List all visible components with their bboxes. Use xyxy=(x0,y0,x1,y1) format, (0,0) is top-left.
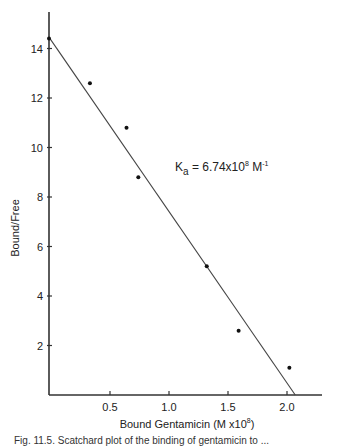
binding-constant-annotation: Ka = 6.74x108 M-1 xyxy=(175,160,269,177)
x-axis-title: Bound Gentamicin (M x108) xyxy=(120,417,255,430)
y-tick-label: 6 xyxy=(37,241,43,253)
data-point xyxy=(237,329,241,333)
y-tick-label: 4 xyxy=(37,290,43,302)
data-point xyxy=(205,264,209,268)
figure-caption: Fig. 11.5. Scatchard plot of the binding… xyxy=(14,435,269,446)
y-tick-label: 14 xyxy=(31,43,43,55)
data-point xyxy=(125,126,129,130)
data-point xyxy=(136,175,140,179)
x-tick-label: 2.0 xyxy=(279,401,294,413)
y-tick-label: 12 xyxy=(31,92,43,104)
data-point xyxy=(47,37,51,41)
data-point xyxy=(287,366,291,370)
data-point xyxy=(88,81,92,85)
x-tick-label: 1.0 xyxy=(161,401,176,413)
scatchard-plot: 24681012140.51.01.52.0Bound/FreeBound Ge… xyxy=(0,0,338,446)
y-tick-label: 8 xyxy=(37,191,43,203)
y-tick-label: 2 xyxy=(37,340,43,352)
x-tick-label: 1.5 xyxy=(220,401,235,413)
x-tick-label: 0.5 xyxy=(102,401,117,413)
y-axis-title: Bound/Free xyxy=(9,199,21,256)
regression-line xyxy=(50,39,295,395)
y-tick-label: 10 xyxy=(31,142,43,154)
